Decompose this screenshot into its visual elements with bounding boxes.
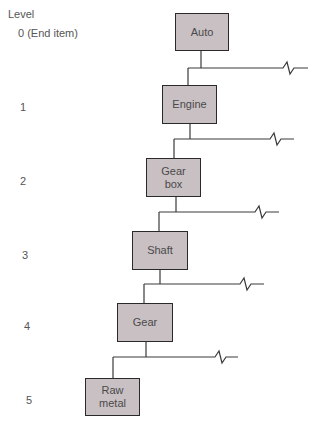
item-label-raw-metal-1: Raw: [101, 384, 123, 397]
connector-shaft: [144, 269, 264, 303]
connector-auto: [188, 50, 308, 85]
connector-gear: [113, 341, 238, 378]
item-label-gearbox-2: box: [165, 178, 183, 191]
connector-engine: [174, 123, 294, 158]
item-label-engine: Engine: [172, 98, 206, 111]
item-box-engine: Engine: [162, 85, 217, 124]
connector-gearbox: [159, 196, 279, 231]
item-box-gear: Gear: [117, 303, 173, 342]
item-box-shaft: Shaft: [132, 231, 188, 270]
item-label-shaft: Shaft: [147, 244, 173, 257]
item-label-gear: Gear: [133, 316, 157, 329]
item-box-gearbox: Gear box: [146, 158, 201, 197]
item-box-auto: Auto: [175, 13, 229, 51]
item-label-raw-metal-2: metal: [99, 397, 126, 410]
item-label-auto: Auto: [191, 26, 214, 39]
item-box-raw-metal: Raw metal: [85, 378, 140, 416]
connector-lines: [0, 0, 318, 427]
item-label-gearbox-1: Gear: [161, 165, 185, 178]
